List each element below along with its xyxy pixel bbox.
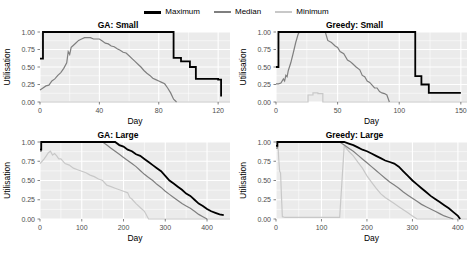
svg-text:Utilisation: Utilisation xyxy=(238,162,248,199)
svg-text:1.00: 1.00 xyxy=(257,29,271,36)
panel-greedy-large: Greedy: Large 0.000.250.500.751.00010020… xyxy=(236,128,473,253)
svg-text:0.00: 0.00 xyxy=(21,216,35,223)
legend-swatch-median xyxy=(214,11,231,13)
svg-text:100: 100 xyxy=(316,224,328,231)
svg-text:Utilisation: Utilisation xyxy=(238,48,248,85)
legend-swatch-minimum xyxy=(275,11,292,13)
svg-text:0: 0 xyxy=(38,224,42,231)
svg-text:Day: Day xyxy=(127,233,143,243)
panel-greedy-small: Greedy: Small 0.000.250.500.751.00050100… xyxy=(236,18,473,128)
svg-text:0.75: 0.75 xyxy=(21,158,35,165)
svg-text:0: 0 xyxy=(274,224,278,231)
svg-text:0.50: 0.50 xyxy=(257,64,271,71)
svg-text:0.25: 0.25 xyxy=(21,196,35,203)
legend-swatch-maximum xyxy=(144,11,161,14)
svg-text:Day: Day xyxy=(127,116,143,126)
svg-text:0.75: 0.75 xyxy=(257,158,271,165)
svg-text:0: 0 xyxy=(38,107,42,114)
svg-text:50: 50 xyxy=(334,107,342,114)
svg-text:100: 100 xyxy=(76,224,88,231)
svg-text:1.00: 1.00 xyxy=(257,139,271,146)
legend-label-minimum: Minimum xyxy=(296,7,328,17)
svg-text:120: 120 xyxy=(212,107,224,114)
panel-plot: 0.000.250.500.751.0004080120DayUtilisati… xyxy=(0,18,236,128)
legend-entry-maximum: Maximum xyxy=(144,7,200,17)
svg-text:Utilisation: Utilisation xyxy=(2,48,12,85)
svg-text:Day: Day xyxy=(364,233,380,243)
svg-text:0.00: 0.00 xyxy=(257,216,271,223)
svg-text:0.00: 0.00 xyxy=(257,99,271,106)
panel-ga-large: GA: Large 0.000.250.500.751.000100200300… xyxy=(0,128,236,253)
svg-text:400: 400 xyxy=(201,224,213,231)
panel-plot: 0.000.250.500.751.000100200300400DayUtil… xyxy=(236,128,473,253)
figure-panel-grid: Maximum Median Minimum GA: Small 0.000.2… xyxy=(0,0,473,253)
svg-text:0.00: 0.00 xyxy=(21,99,35,106)
legend-entry-minimum: Minimum xyxy=(275,7,328,17)
svg-text:0.25: 0.25 xyxy=(257,196,271,203)
svg-text:400: 400 xyxy=(452,224,464,231)
panel-plot: 0.000.250.500.751.00050100150DayUtilisat… xyxy=(236,18,473,128)
svg-text:0.25: 0.25 xyxy=(257,81,271,88)
svg-text:Day: Day xyxy=(364,116,380,126)
svg-text:200: 200 xyxy=(118,224,130,231)
svg-text:0.50: 0.50 xyxy=(21,177,35,184)
svg-text:300: 300 xyxy=(159,224,171,231)
panel-plot: 0.000.250.500.751.000100200300400DayUtil… xyxy=(0,128,236,253)
svg-text:1.00: 1.00 xyxy=(21,139,35,146)
svg-text:0.75: 0.75 xyxy=(257,46,271,53)
svg-text:0: 0 xyxy=(274,107,278,114)
svg-text:0.25: 0.25 xyxy=(21,81,35,88)
svg-text:1.00: 1.00 xyxy=(21,29,35,36)
svg-text:300: 300 xyxy=(407,224,419,231)
legend-entry-median: Median xyxy=(214,7,261,17)
svg-text:Utilisation: Utilisation xyxy=(2,162,12,199)
svg-text:80: 80 xyxy=(155,107,163,114)
svg-text:40: 40 xyxy=(95,107,103,114)
panel-ga-small: GA: Small 0.000.250.500.751.0004080120Da… xyxy=(0,18,236,128)
svg-text:0.50: 0.50 xyxy=(21,64,35,71)
svg-text:100: 100 xyxy=(393,107,405,114)
legend-label-maximum: Maximum xyxy=(165,7,200,17)
svg-text:0.75: 0.75 xyxy=(21,46,35,53)
svg-text:150: 150 xyxy=(455,107,467,114)
svg-text:0.50: 0.50 xyxy=(257,177,271,184)
svg-text:200: 200 xyxy=(361,224,373,231)
legend-label-median: Median xyxy=(235,7,261,17)
